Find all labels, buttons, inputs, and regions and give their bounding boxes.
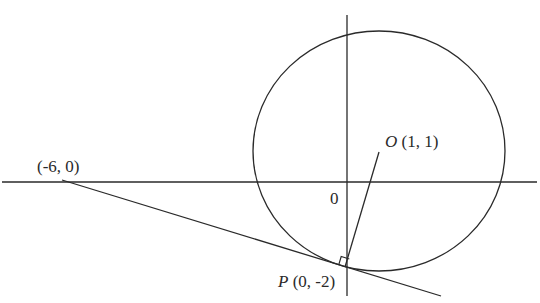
label-center-coords: (1, 1) xyxy=(402,132,439,151)
label-center-name: O xyxy=(385,132,397,151)
label-tangent-point-name: P xyxy=(278,272,288,291)
label-tangent-point: P (0, -2) xyxy=(278,273,335,290)
circle xyxy=(253,31,505,271)
label-point-neg6-0: (-6, 0) xyxy=(37,158,79,175)
radius-segment xyxy=(345,152,379,267)
label-origin: 0 xyxy=(330,190,339,207)
label-center: O (1, 1) xyxy=(385,133,438,150)
tangent-line xyxy=(62,180,441,296)
geometry-diagram xyxy=(0,0,540,303)
label-tangent-point-coords: (0, -2) xyxy=(293,272,335,291)
